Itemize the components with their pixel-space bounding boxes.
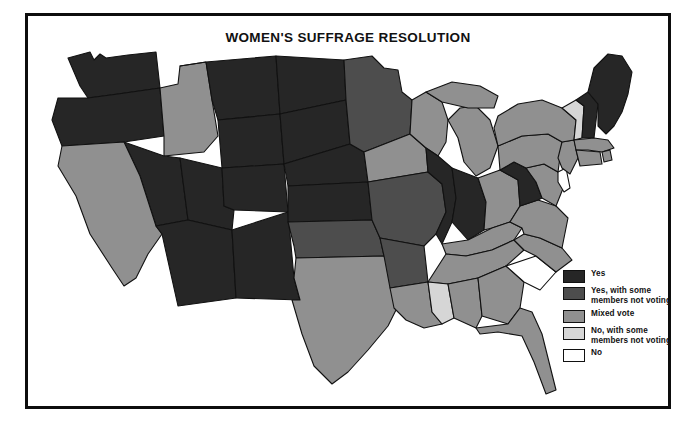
state-arizona[interactable] xyxy=(156,220,236,306)
legend: Yes Yes, with some members not voting Mi… xyxy=(563,269,698,365)
state-florida[interactable] xyxy=(476,308,556,394)
state-wyoming[interactable] xyxy=(218,114,284,168)
state-colorado[interactable] xyxy=(222,164,288,212)
map-frame: WOMEN'S SUFFRAGE RESOLUTION xyxy=(25,13,671,409)
legend-item-yes-some[interactable]: Yes, with some members not voting xyxy=(563,286,698,306)
state-texas[interactable] xyxy=(292,256,400,384)
legend-item-no[interactable]: No xyxy=(563,348,698,362)
state-kansas[interactable] xyxy=(288,182,372,222)
legend-item-yes[interactable]: Yes xyxy=(563,269,698,283)
state-connecticut[interactable] xyxy=(576,150,602,166)
legend-label-no-some: No, with some members not voting xyxy=(591,326,671,346)
state-missouri[interactable] xyxy=(368,172,446,246)
legend-swatch-no-some xyxy=(563,327,585,340)
state-oregon[interactable] xyxy=(52,88,164,146)
legend-swatch-mixed xyxy=(563,310,585,323)
legend-item-no-some[interactable]: No, with some members not voting xyxy=(563,326,698,346)
legend-label-yes-some: Yes, with some members not voting xyxy=(591,286,671,306)
legend-label-no: No xyxy=(591,348,602,358)
legend-label-mixed: Mixed vote xyxy=(591,309,634,319)
legend-swatch-no xyxy=(563,349,585,362)
legend-label-yes: Yes xyxy=(591,269,605,279)
state-oklahoma[interactable] xyxy=(288,220,384,258)
legend-swatch-yes xyxy=(563,270,585,283)
state-alabama[interactable] xyxy=(448,278,482,328)
state-michigan[interactable] xyxy=(448,106,498,176)
legend-swatch-yes-some xyxy=(563,287,585,300)
legend-item-mixed[interactable]: Mixed vote xyxy=(563,309,698,323)
state-rhode-island[interactable] xyxy=(602,150,612,162)
